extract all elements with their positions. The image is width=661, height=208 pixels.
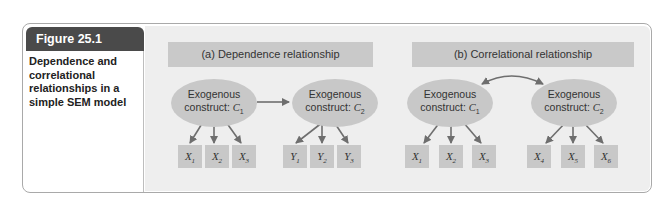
node-label-2: construct: C1 — [407, 101, 493, 118]
indicator-node: Y1 — [283, 145, 307, 168]
panel-a-title: (a) Dependence relationship — [168, 42, 373, 67]
indicator-node: X5 — [561, 145, 585, 168]
node-label: Exogenous — [407, 88, 493, 101]
indicator-node: X3 — [232, 145, 256, 168]
node-label: Exogenous — [292, 88, 378, 101]
indicator-node: Y2 — [310, 145, 334, 168]
indicator-node: X1 — [178, 145, 202, 168]
construct-node: Exogenous construct: C1 — [407, 79, 493, 127]
construct-node: Exogenous construct: C2 — [292, 79, 378, 127]
indicator-node: X4 — [527, 145, 551, 168]
indicator-node: Y3 — [337, 145, 361, 168]
node-label-2: construct: C1 — [171, 101, 257, 118]
construct-node: Exogenous construct: C1 — [171, 79, 257, 127]
indicator-node: X2 — [439, 145, 463, 168]
indicator-node: X6 — [594, 145, 618, 168]
correlation-arrow-icon — [482, 76, 543, 84]
panel-b-title: (b) Correlational relationship — [412, 42, 634, 67]
node-label: Exogenous — [531, 88, 617, 101]
indicator-node: X1 — [405, 145, 429, 168]
indicator-node: X3 — [472, 145, 496, 168]
construct-node: Exogenous construct: C2 — [531, 79, 617, 127]
node-label: Exogenous — [171, 88, 257, 101]
node-label-2: construct: C2 — [292, 101, 378, 118]
node-label-2: construct: C2 — [531, 101, 617, 118]
indicator-node: X2 — [205, 145, 229, 168]
